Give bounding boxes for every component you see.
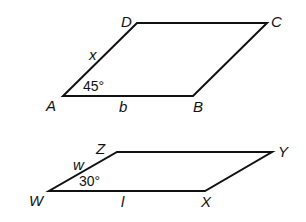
side-label-l: l — [121, 193, 125, 210]
side-label-b: b — [119, 98, 127, 115]
angle-label-30: 30° — [79, 173, 100, 189]
side-label-x: x — [88, 46, 97, 63]
vertex-label-w: W — [29, 192, 45, 209]
vertex-label-d: D — [121, 13, 132, 30]
diagram-canvas: A B C D x b 45° W X Y Z w l 30° — [0, 0, 306, 222]
angle-label-45: 45° — [83, 78, 104, 94]
parallelogram-wxyz: W X Y Z w l 30° — [29, 140, 289, 210]
side-label-w: w — [73, 156, 85, 173]
vertex-label-x: X — [200, 193, 212, 210]
vertex-label-c: C — [271, 13, 282, 30]
vertex-label-b: B — [193, 98, 203, 115]
parallelogram-abcd: A B C D x b 45° — [45, 13, 282, 115]
vertex-label-z: Z — [95, 140, 106, 157]
vertex-label-y: Y — [278, 143, 289, 160]
vertex-label-a: A — [45, 97, 56, 114]
